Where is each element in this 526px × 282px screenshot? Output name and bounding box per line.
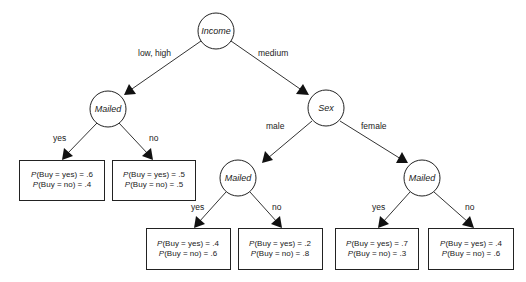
leaf-prob-yes: P(Buy = yes) = .4 — [440, 239, 502, 248]
leaf-box-1: P(Buy = yes) = .6 P(Buy = no) = .4 — [20, 161, 105, 201]
leaf-box-3: P(Buy = yes) = .4 P(Buy = no) = .6 — [147, 229, 231, 270]
leaf-prob-no: P(Buy = no) = .6 — [159, 249, 218, 258]
edge-label-no: no — [272, 202, 282, 212]
leaf-box-4: P(Buy = yes) = .2 P(Buy = no) = .8 — [239, 229, 323, 270]
edge-label-no: no — [149, 133, 159, 143]
node-mailed-3: Mailed — [404, 160, 440, 196]
leaf-box-6: P(Buy = yes) = .4 P(Buy = no) = .6 — [429, 229, 514, 270]
leaf-prob-yes: P(Buy = yes) = .5 — [123, 170, 185, 179]
leaf-prob-no: P(Buy = no) = .5 — [125, 180, 184, 189]
edge-label-yes: yes — [191, 202, 204, 212]
leaf-prob-no: P(Buy = no) = .4 — [33, 180, 92, 189]
edge-label-female: female — [361, 121, 387, 131]
edge-label-low-high: low, high — [138, 48, 171, 58]
edge-label-no: no — [465, 202, 475, 212]
node-label-mailed: Mailed — [409, 173, 437, 183]
leaf-prob-yes: P(Buy = yes) = .2 — [249, 239, 311, 248]
arrowhead-icon — [262, 151, 273, 163]
node-mailed-1: Mailed — [90, 91, 126, 127]
leaf-prob-yes: P(Buy = yes) = .6 — [31, 170, 93, 179]
edge-label-male: male — [266, 121, 285, 131]
edge-mailed-1-to-leaf-1 — [62, 123, 97, 160]
arrowhead-icon — [296, 84, 309, 95]
arrowhead-icon — [124, 84, 136, 95]
leaf-prob-no: P(Buy = no) = .8 — [251, 249, 310, 258]
leaf-prob-yes: P(Buy = yes) = .7 — [346, 239, 408, 248]
leaf-prob-no: P(Buy = no) = .6 — [442, 249, 501, 258]
node-label-mailed: Mailed — [225, 173, 253, 183]
node-label-mailed: Mailed — [95, 104, 123, 114]
node-income: Income — [198, 13, 234, 49]
node-label-income: Income — [201, 26, 231, 36]
leaf-prob-yes: P(Buy = yes) = .4 — [157, 239, 219, 248]
node-label-sex: Sex — [318, 103, 334, 113]
edge-label-yes: yes — [53, 133, 66, 143]
edge-mailed-1-to-leaf-2 — [119, 123, 153, 160]
decision-tree-diagram: low, high medium yes no male female yes … — [0, 0, 526, 282]
leaf-box-2: P(Buy = yes) = .5 P(Buy = no) = .5 — [113, 161, 196, 201]
leaf-box-5: P(Buy = yes) = .7 P(Buy = no) = .3 — [336, 229, 419, 270]
edge-label-yes: yes — [372, 202, 385, 212]
edge-label-medium: medium — [258, 48, 288, 58]
leaf-prob-no: P(Buy = no) = .3 — [348, 249, 407, 258]
node-mailed-2: Mailed — [220, 160, 256, 196]
node-sex: Sex — [308, 90, 344, 126]
